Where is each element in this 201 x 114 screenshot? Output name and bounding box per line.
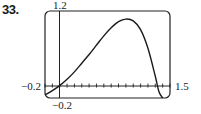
graph-viewing-window: [0, 0, 201, 114]
x-max-label: 1.5: [175, 81, 189, 92]
y-min-label: −0.2: [52, 100, 72, 111]
x-min-label: −0.2: [21, 81, 41, 92]
y-max-label: 1.2: [53, 0, 67, 11]
window-frame: [45, 11, 170, 98]
